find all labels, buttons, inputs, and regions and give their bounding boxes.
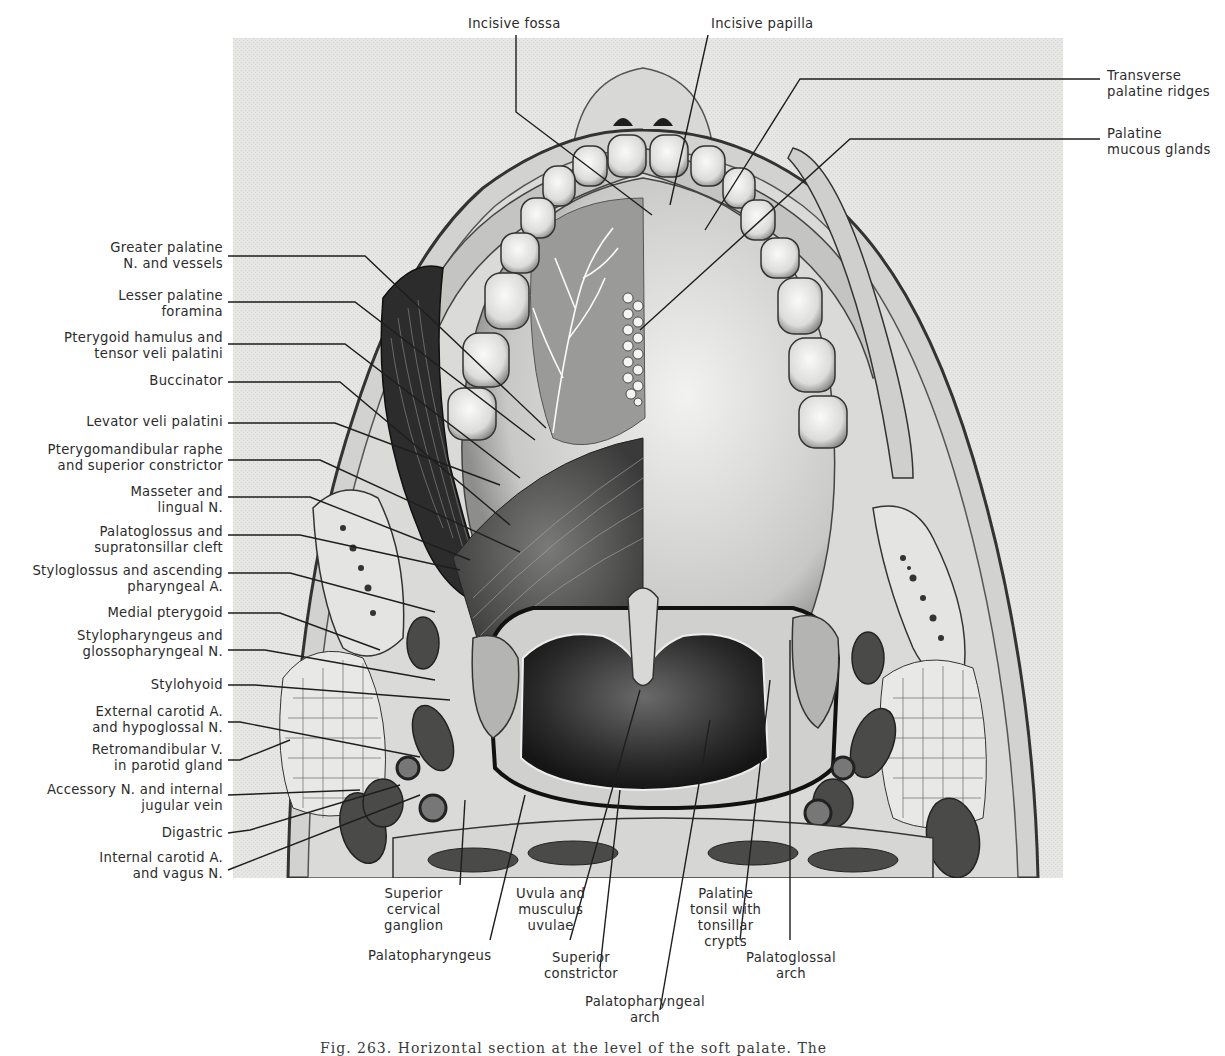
anatomical-illustration [233,38,1063,878]
label-palatine-mucous-glands: Palatine mucous glands [1107,126,1211,158]
label-incisive-papilla: Incisive papilla [711,16,814,32]
label-palatopharyngeal-arch: Palatopharyngeal arch [585,994,705,1026]
label-palatoglossus: Palatoglossus and supratonsillar cleft [94,524,223,556]
label-superior-constrictor: Superior constrictor [544,950,618,982]
figure-caption: Fig. 263. Horizontal section at the leve… [320,1040,827,1056]
label-stylopharyngeus: Stylopharyngeus and glossopharyngeal N. [77,628,223,660]
label-lesser-palatine: Lesser palatine foramina [118,288,223,320]
label-palatine-tonsil: Palatine tonsil with tonsillar crypts [690,886,761,950]
label-greater-palatine: Greater palatine N. and vessels [110,240,223,272]
label-styloglossus: Styloglossus and ascending pharyngeal A. [32,563,223,595]
label-incisive-fossa: Incisive fossa [468,16,561,32]
label-internal-carotid: Internal carotid A. and vagus N. [99,850,223,882]
label-medial-pterygoid: Medial pterygoid [107,605,223,621]
label-uvula: Uvula and musculus uvulae [516,886,585,934]
label-accessory-n: Accessory N. and internal jugular vein [47,782,223,814]
label-pterygomandibular: Pterygomandibular raphe and superior con… [47,442,223,474]
label-digastric: Digastric [162,825,223,841]
label-masseter: Masseter and lingual N. [130,484,223,516]
label-superior-cervical-ganglion: Superior cervical ganglion [384,886,443,934]
label-palatoglossal-arch: Palatoglossal arch [746,950,836,982]
label-levator-veli: Levator veli palatini [86,414,223,430]
label-buccinator: Buccinator [149,373,223,389]
label-palatopharyngeus: Palatopharyngeus [368,948,491,964]
label-pterygoid-hamulus: Pterygoid hamulus and tensor veli palati… [64,330,223,362]
label-external-carotid: External carotid A. and hypoglossal N. [92,704,223,736]
label-transverse-palatine-ridges: Transverse palatine ridges [1107,68,1210,100]
label-stylohyoid: Stylohyoid [151,677,223,693]
label-retromandibular: Retromandibular V. in parotid gland [92,742,223,774]
section-drawing [233,38,1063,878]
